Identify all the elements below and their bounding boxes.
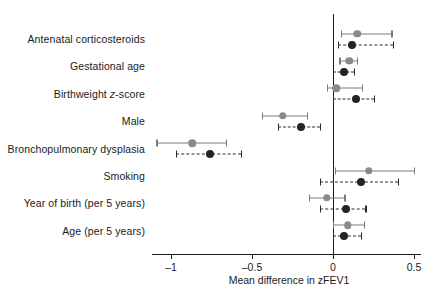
ci-cap-gray-2-lower [327,85,328,92]
ci-cap-gray-1-upper [357,57,358,64]
ci-cap-black-4-lower [176,151,177,158]
ci-cap-black-6-upper [365,205,366,212]
x-tick-label-2: 0 [330,261,336,273]
estimate-point-gray-2 [332,85,340,93]
ci-cap-gray-0-lower [341,30,342,37]
ci-cap-gray-4-lower [156,140,157,147]
ci-line-gray-0 [341,33,391,34]
ci-cap-black-5-lower [320,178,321,185]
ci-cap-black-0-upper [393,41,394,48]
estimate-point-gray-0 [354,30,362,38]
ci-cap-black-7-upper [361,233,362,240]
x-axis-title: Mean difference in zFEV1 [229,274,350,286]
ci-cap-black-1-lower [333,68,334,75]
ci-cap-black-6-lower [320,205,321,212]
estimate-point-gray-5 [365,167,373,175]
x-tick-label-1: –0.5 [242,261,262,273]
x-tick-label-0: –1 [165,261,177,273]
ci-cap-black-4-upper [241,151,242,158]
ci-cap-black-3-lower [278,123,279,130]
ci-cap-gray-7-upper [364,222,365,229]
x-tick-1 [252,254,253,259]
ci-cap-gray-3-lower [262,112,263,119]
estimate-point-black-0 [348,41,356,49]
estimate-point-gray-3 [279,112,287,120]
ci-cap-black-7-lower [333,233,334,240]
x-tick-2 [333,254,334,259]
ci-line-black-0 [338,44,393,45]
x-tick-0 [171,254,172,259]
ci-cap-black-2-lower [333,96,334,103]
reference-line-zero [333,14,334,254]
ci-cap-gray-6-lower [309,194,310,201]
estimate-point-gray-1 [345,57,353,65]
estimate-point-black-2 [352,95,360,103]
estimate-point-black-3 [297,123,305,131]
ci-cap-gray-7-lower [333,222,334,229]
ci-cap-gray-5-upper [414,167,415,174]
ci-cap-black-0-lower [338,41,339,48]
estimate-point-black-7 [340,232,348,240]
ci-cap-black-2-upper [374,96,375,103]
ci-cap-gray-6-upper [344,194,345,201]
ci-cap-gray-0-upper [391,30,392,37]
x-axis-line [152,254,421,255]
ci-cap-gray-2-upper [362,85,363,92]
estimate-point-black-4 [206,150,214,158]
forest-plot-figure: Antenatal corticosteroidsGestational age… [0,0,438,295]
estimate-point-black-1 [340,68,348,76]
estimate-point-gray-4 [188,139,196,147]
ci-cap-gray-5-lower [335,167,336,174]
ci-cap-black-3-upper [320,123,321,130]
ci-cap-black-1-upper [354,68,355,75]
estimate-point-gray-7 [344,222,352,230]
ci-line-gray-5 [335,170,414,171]
x-tick-3 [414,254,415,259]
ci-cap-gray-3-upper [307,112,308,119]
ci-cap-black-5-upper [398,178,399,185]
estimate-point-black-6 [342,205,350,213]
x-tick-label-3: 0.5 [407,261,422,273]
estimate-point-black-5 [357,178,365,186]
ci-cap-gray-4-upper [226,140,227,147]
ci-cap-gray-1-lower [339,57,340,64]
estimate-point-gray-6 [323,194,331,202]
